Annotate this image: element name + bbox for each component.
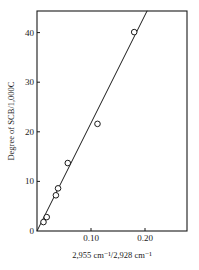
scatter-chart: 010203040 0.100.20 2,955 cm⁻¹/2,928 cm⁻¹… — [0, 0, 199, 270]
y-axis-ticks: 010203040 — [25, 28, 40, 236]
fit-line — [37, 11, 147, 231]
y-tick-label: 10 — [25, 176, 35, 186]
plot-border — [37, 11, 187, 231]
x-tick-label: 0.10 — [83, 233, 99, 243]
data-point — [65, 160, 71, 166]
data-point — [95, 121, 101, 127]
data-point — [131, 29, 137, 35]
x-axis-title: 2,955 cm⁻¹/2,928 cm⁻¹ — [72, 250, 152, 260]
data-point — [44, 214, 50, 220]
x-tick-label: 0.20 — [137, 233, 153, 243]
x-axis-ticks: 0.100.20 — [83, 228, 153, 243]
y-tick-label: 40 — [25, 28, 35, 38]
regression-line — [37, 11, 147, 231]
y-tick-label: 20 — [25, 127, 35, 137]
y-axis-title: Degree of SCB/1,000C — [6, 81, 16, 160]
data-point — [55, 186, 61, 192]
plot-frame — [37, 11, 187, 231]
y-tick-label: 0 — [30, 226, 35, 236]
data-point — [53, 192, 59, 198]
y-tick-label: 30 — [25, 77, 35, 87]
